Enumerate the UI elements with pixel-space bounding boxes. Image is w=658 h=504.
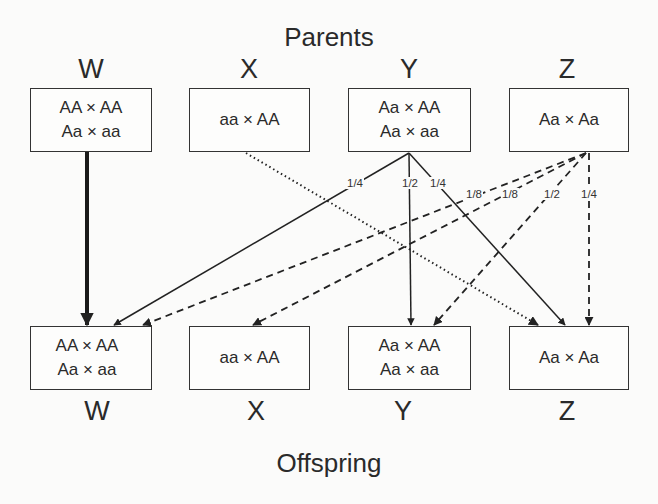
prob-y-to-w: 1/4: [346, 177, 364, 189]
edge-z-to-x: [253, 153, 586, 325]
edge-y-to-w: [114, 153, 409, 325]
prob-z-to-z: 1/4: [580, 188, 598, 200]
transition-arrows: [0, 0, 658, 504]
prob-z-to-x: 1/8: [501, 188, 519, 200]
prob-z-to-y: 1/2: [543, 188, 561, 200]
edge-z-to-y: [434, 153, 586, 325]
prob-y-to-y: 1/2: [401, 177, 419, 189]
prob-y-to-z: 1/4: [429, 177, 447, 189]
edge-x-to-z: [246, 153, 538, 325]
prob-z-to-w: 1/8: [465, 188, 483, 200]
